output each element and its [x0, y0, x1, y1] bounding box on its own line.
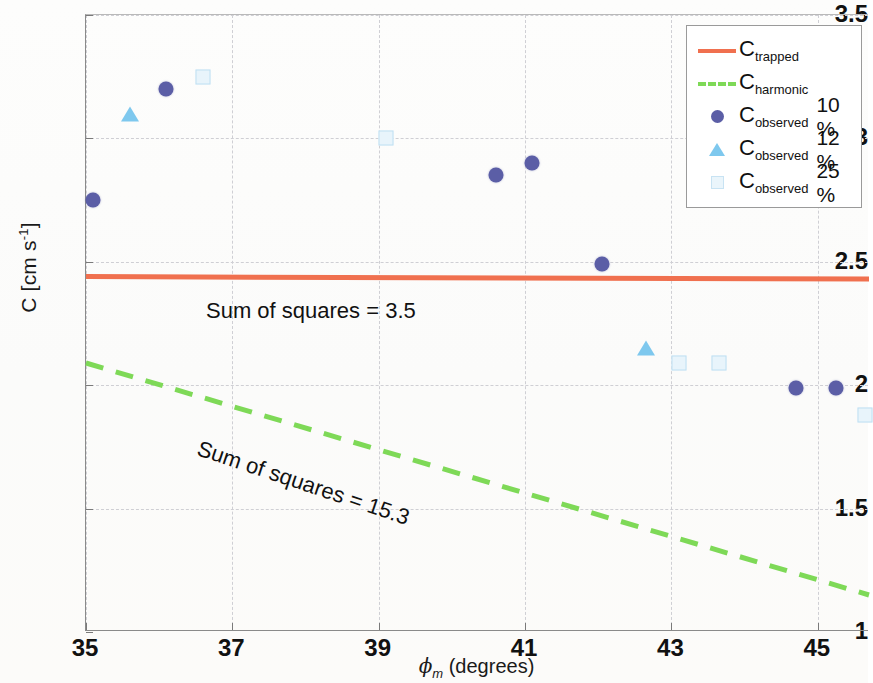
x-axis-tick-label: 41	[494, 634, 554, 662]
legend-label-subscript: observed	[755, 115, 808, 130]
data-point-circle	[829, 380, 844, 395]
y-axis-label-bracket: ]	[17, 222, 40, 228]
legend-label-subscript: harmonic	[755, 82, 808, 97]
legend-key-swatch	[695, 140, 739, 160]
legend-label-subscript: observed	[755, 148, 808, 163]
legend-item-label: Charmonic	[739, 71, 808, 96]
legend-item[interactable]: Cobserved25 %	[695, 166, 855, 199]
data-point-triangle	[121, 106, 139, 121]
legend-item[interactable]: Ctrapped	[695, 34, 855, 67]
data-point-square	[671, 355, 686, 370]
y-axis-label-exponent: -1	[16, 228, 31, 240]
data-point-square	[379, 131, 394, 146]
legend-label-base: C	[739, 135, 755, 160]
legend-swatch-marker-square-icon	[711, 176, 724, 189]
legend-label-subscript: observed	[755, 181, 808, 196]
legend-swatch-marker-circle-icon	[711, 110, 724, 123]
data-point-triangle	[637, 341, 655, 356]
legend-label-base: C	[739, 102, 755, 127]
x-axis-tick-label: 45	[787, 634, 847, 662]
data-point-square	[711, 355, 726, 370]
data-point-circle	[594, 257, 609, 272]
data-point-square	[858, 407, 873, 422]
annotation-trapped-sum-of-squares: Sum of squares = 3.5	[206, 298, 416, 324]
legend-swatch-marker-triangle-icon	[709, 143, 725, 156]
line-c-harmonic	[86, 363, 869, 595]
legend-key-swatch	[695, 107, 739, 127]
line-c-trapped	[86, 277, 869, 280]
legend-key-swatch	[695, 41, 739, 61]
legend-swatch-line-dashed-icon	[698, 82, 736, 86]
legend-label-base: C	[739, 69, 755, 94]
y-axis-tick	[86, 632, 93, 633]
legend-item-percentage: 25 %	[816, 159, 855, 207]
legend-swatch-line-solid-icon	[698, 49, 736, 53]
data-point-circle	[86, 193, 101, 208]
data-point-circle	[525, 156, 540, 171]
legend-item-label: Cobserved	[739, 137, 808, 162]
chart-legend: CtrappedCharmonicCobserved10 %Cobserved1…	[686, 25, 862, 208]
legend-key-swatch	[695, 74, 739, 94]
data-point-circle	[488, 168, 503, 183]
legend-label-base: C	[739, 36, 755, 61]
y-axis-label: C [cm s-1]	[16, 188, 41, 348]
legend-key-swatch	[695, 173, 739, 193]
legend-item-label: Ctrapped	[739, 38, 799, 63]
x-axis-tick-label: 43	[640, 634, 700, 662]
data-point-circle	[159, 82, 174, 97]
x-axis-label-subscript: m	[432, 666, 443, 681]
legend-label-base: C	[739, 168, 755, 193]
x-axis-tick-label: 39	[348, 634, 408, 662]
x-axis-tick-label: 37	[201, 634, 261, 662]
legend-item-label: Cobserved	[739, 170, 808, 195]
x-axis-label-symbol: ϕ	[419, 654, 433, 678]
y-axis-label-text: C [cm s	[17, 240, 40, 313]
legend-item-label: Cobserved	[739, 104, 808, 129]
data-point-square	[196, 69, 211, 84]
x-axis-tick-label: 35	[55, 634, 115, 662]
data-point-circle	[788, 380, 803, 395]
legend-label-subscript: trapped	[755, 49, 799, 64]
